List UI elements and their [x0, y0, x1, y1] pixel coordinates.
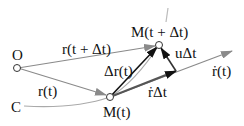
point-m-t	[107, 94, 114, 101]
label-delta-r: Δr(t)	[104, 63, 133, 80]
label-rdot-dt: ṙΔt	[148, 84, 168, 100]
point-origin	[14, 65, 21, 72]
label-m-t: M(t)	[103, 104, 131, 121]
label-m-t-dt: M(t + Δt)	[131, 24, 188, 41]
point-m-t-dt	[156, 42, 163, 49]
label-r-t: r(t)	[38, 83, 57, 100]
vector-u-dt	[161, 48, 176, 71]
label-origin: O	[12, 47, 23, 63]
label-rdot: ṙ(t)	[212, 63, 231, 80]
kinematics-diagram: O C M(t) M(t + Δt) r(t + Δt) r(t) Δr(t) …	[0, 0, 244, 126]
label-curve-start: C	[11, 99, 21, 115]
vector-r-t	[18, 68, 106, 95]
trajectory-curve-continuation	[166, 8, 168, 22]
label-u-dt: uΔt	[175, 45, 197, 61]
label-r-t-dt: r(t + Δt)	[62, 41, 111, 58]
